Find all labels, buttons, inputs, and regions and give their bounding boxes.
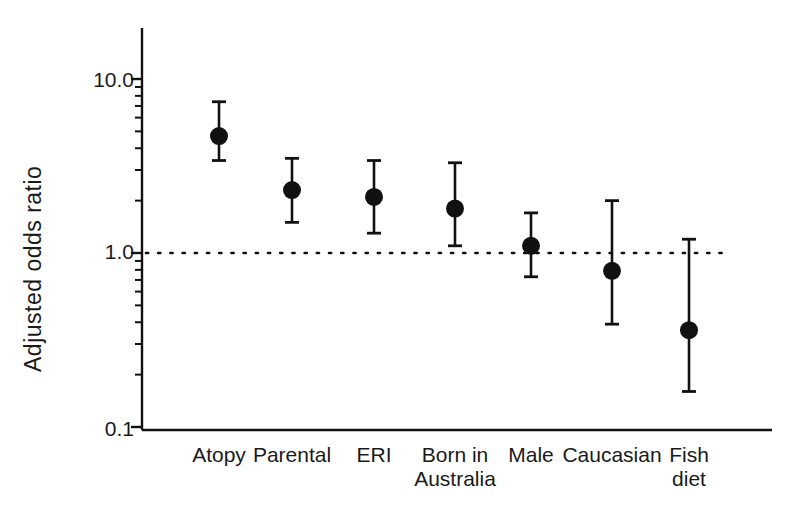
data-point-3 bbox=[446, 163, 464, 246]
data-point-5 bbox=[603, 201, 621, 325]
odds-ratio-chart: Adjusted odds ratio 10.0 1.0 0.1 Atopy P… bbox=[0, 0, 807, 514]
data-point-6 bbox=[680, 239, 698, 391]
data-point-4 bbox=[522, 213, 540, 277]
data-point-0 bbox=[210, 102, 228, 161]
data-points bbox=[210, 102, 698, 392]
data-point-1 bbox=[283, 158, 301, 222]
plot-area bbox=[0, 0, 807, 514]
axes bbox=[142, 28, 772, 430]
axis-ticks bbox=[131, 79, 142, 427]
data-point-2 bbox=[365, 161, 383, 234]
